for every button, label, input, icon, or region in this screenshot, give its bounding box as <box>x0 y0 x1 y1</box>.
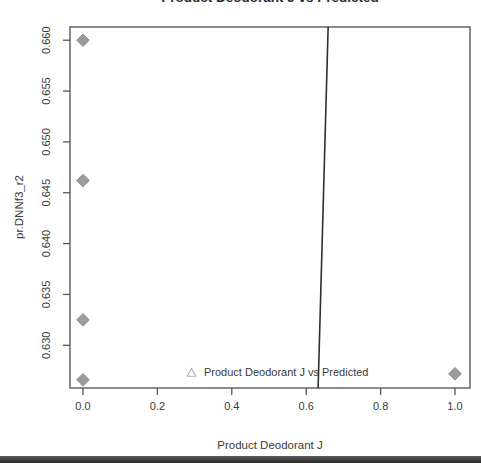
x-tick-label: 0.6 <box>299 400 314 412</box>
triangle-open-icon <box>186 367 197 378</box>
legend: Product Deodorant J vs Predicted <box>186 365 368 379</box>
plot-border <box>70 27 470 388</box>
y-tick-label: 0.640 <box>40 230 52 258</box>
chart: Product Deodorant J vs Predicted pr.DNNf… <box>0 0 481 468</box>
data-point-diamond <box>77 34 90 47</box>
data-point-diamond <box>77 374 90 387</box>
fit-line <box>318 27 328 388</box>
data-point-diamond <box>77 174 90 187</box>
y-tick-label: 0.630 <box>40 332 52 360</box>
y-tick-label: 0.650 <box>40 128 52 156</box>
window-bottom-edge <box>0 456 481 463</box>
x-tick-label: 0.0 <box>75 400 90 412</box>
x-axis-label: Product Deodorant J <box>70 439 470 451</box>
data-point-diamond <box>449 367 462 380</box>
y-tick-label: 0.660 <box>40 26 52 54</box>
x-tick-label: 0.2 <box>150 400 165 412</box>
y-tick-label: 0.645 <box>40 179 52 207</box>
x-tick-label: 1.0 <box>447 400 462 412</box>
plot-canvas: 0.00.20.40.60.81.00.6300.6350.6400.6450.… <box>0 0 481 468</box>
data-point-diamond <box>77 314 90 327</box>
x-tick-label: 0.8 <box>373 400 388 412</box>
x-tick-label: 0.4 <box>224 400 239 412</box>
y-tick-label: 0.655 <box>40 77 52 105</box>
y-tick-label: 0.635 <box>40 281 52 309</box>
legend-label: Product Deodorant J vs Predicted <box>204 366 368 378</box>
